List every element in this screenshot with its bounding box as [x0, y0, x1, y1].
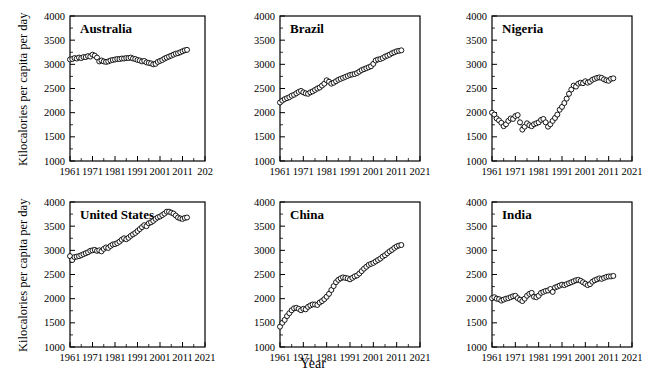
y-tick-label: 1500	[44, 131, 65, 142]
x-tick-label: 2011	[172, 166, 193, 177]
x-tick-label: 1971	[505, 352, 526, 363]
x-tick-label: 2021	[410, 166, 431, 177]
data-point-marker	[518, 120, 523, 125]
x-tick-label: 2001	[575, 166, 596, 177]
x-tick-label: 1981	[105, 166, 126, 177]
x-tick-label: 1981	[316, 166, 337, 177]
figure-panel-grid: Kilocalories per capita per day Kilocalo…	[0, 0, 669, 378]
panel-title: United States	[80, 207, 154, 222]
y-tick-label: 4000	[466, 197, 487, 208]
y-tick-label: 1500	[466, 317, 487, 328]
plot-area-india: 1000150020002500300035004000196119711981…	[444, 190, 656, 372]
x-tick-label: 2001	[150, 166, 171, 177]
panel-title: Brazil	[290, 21, 324, 36]
data-point-marker	[564, 96, 569, 101]
x-tick-label: 1991	[552, 352, 573, 363]
y-tick-label: 3000	[466, 245, 487, 256]
panel-title: Nigeria	[502, 21, 544, 36]
y-tick-label: 3500	[254, 35, 275, 46]
y-tick-label: 1000	[44, 156, 65, 167]
x-tick-label: 2021	[622, 166, 643, 177]
y-tick-label: 3000	[254, 59, 275, 70]
x-tick-label: 1961	[270, 166, 291, 177]
x-tick-label: 2001	[363, 166, 384, 177]
plot-frame	[70, 16, 205, 161]
panel-title: India	[502, 207, 532, 222]
plot-area-united-states: 1000150020002500300035004000196119711981…	[8, 190, 232, 372]
x-tick-label: 1991	[127, 166, 148, 177]
x-tick-label: 2021	[622, 352, 643, 363]
data-point-marker	[611, 76, 616, 81]
y-tick-label: 1500	[254, 131, 275, 142]
x-tick-label: 2011	[598, 352, 619, 363]
plot-area-brazil: 1000150020002500300035004000196119711981…	[232, 4, 444, 186]
x-tick-label: 1961	[270, 352, 291, 363]
data-point-marker	[399, 243, 404, 248]
y-tick-label: 3500	[44, 221, 65, 232]
y-tick-label: 3500	[466, 35, 487, 46]
data-point-marker	[185, 215, 190, 220]
y-tick-label: 3000	[44, 245, 65, 256]
data-point-marker	[399, 48, 404, 53]
data-point-marker	[555, 112, 560, 117]
y-tick-label: 2000	[254, 107, 275, 118]
x-tick-label: 2011	[386, 352, 407, 363]
x-tick-label: 2011	[598, 166, 619, 177]
y-tick-label: 3000	[44, 59, 65, 70]
y-tick-label: 2000	[44, 107, 65, 118]
x-tick-label: 1961	[60, 166, 81, 177]
plot-area-nigeria: 1000150020002500300035004000196119711981…	[444, 4, 656, 186]
x-tick-label: 2021	[410, 352, 431, 363]
x-tick-label: 1971	[293, 166, 314, 177]
y-tick-label: 1000	[254, 156, 275, 167]
x-tick-label: 2001	[363, 352, 384, 363]
y-tick-label: 2000	[466, 293, 487, 304]
panel-united-states: 1000150020002500300035004000196119711981…	[8, 190, 232, 372]
y-tick-label: 1000	[466, 156, 487, 167]
panel-title: Australia	[80, 21, 133, 36]
x-tick-label: 1991	[552, 166, 573, 177]
plot-area-australia: 1000150020002500300035004000196119711981…	[8, 4, 232, 186]
x-tick-label: 2011	[386, 166, 407, 177]
plot-frame	[70, 202, 205, 347]
y-tick-label: 4000	[44, 197, 65, 208]
plot-frame	[280, 202, 420, 347]
x-tick-label: 1981	[528, 352, 549, 363]
x-tick-label: 2001	[150, 352, 171, 363]
x-tick-label: 1991	[340, 352, 361, 363]
y-tick-label: 2500	[254, 269, 275, 280]
y-tick-label: 2500	[44, 269, 65, 280]
x-tick-label: 2011	[172, 352, 193, 363]
y-tick-label: 3500	[254, 221, 275, 232]
panel-title: China	[290, 207, 324, 222]
y-tick-label: 2000	[254, 293, 275, 304]
y-tick-label: 1000	[254, 342, 275, 353]
y-tick-label: 2000	[44, 293, 65, 304]
x-tick-label: 1981	[105, 352, 126, 363]
y-tick-label: 1000	[44, 342, 65, 353]
x-tick-label: 1991	[127, 352, 148, 363]
panel-australia: 1000150020002500300035004000196119711981…	[8, 4, 232, 186]
data-point-marker	[185, 47, 190, 52]
x-tick-label: 1971	[505, 166, 526, 177]
plot-area-china: 1000150020002500300035004000196119711981…	[232, 190, 444, 372]
x-tick-label: 1961	[60, 352, 81, 363]
panel-china: 1000150020002500300035004000196119711981…	[232, 190, 444, 372]
y-tick-label: 3500	[44, 35, 65, 46]
y-tick-label: 3000	[254, 245, 275, 256]
x-tick-label: 1981	[528, 166, 549, 177]
x-tick-label: 1991	[340, 166, 361, 177]
y-tick-label: 2500	[466, 269, 487, 280]
panel-india: 1000150020002500300035004000196119711981…	[444, 190, 656, 372]
plot-frame	[492, 16, 632, 161]
x-tick-label: 1971	[82, 166, 103, 177]
y-tick-label: 1000	[466, 342, 487, 353]
x-tick-label: 1961	[482, 166, 503, 177]
x-tick-label: 202	[197, 166, 213, 177]
y-tick-label: 2000	[466, 107, 487, 118]
y-tick-label: 2500	[466, 83, 487, 94]
y-tick-label: 2500	[254, 83, 275, 94]
y-tick-label: 2500	[44, 83, 65, 94]
y-tick-label: 4000	[254, 11, 275, 22]
panel-brazil: 1000150020002500300035004000196119711981…	[232, 4, 444, 186]
